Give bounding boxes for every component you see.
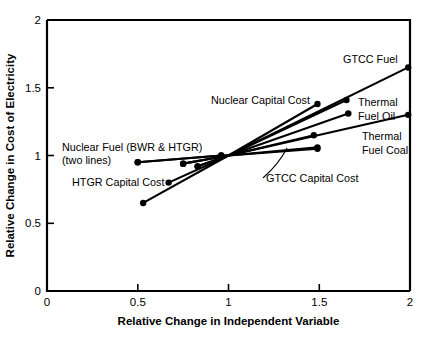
annotation-nuclear-capital-cost: Nuclear Capital Cost (211, 94, 310, 106)
y-tick-label-0: 0 (35, 285, 41, 297)
data-point (314, 146, 320, 152)
x-axis-title: Relative Change in Independent Variable (118, 315, 340, 327)
y-tick-label-0-5: 0.5 (25, 217, 41, 229)
annotation-gtcc-capital-cost: GTCC Capital Cost (266, 172, 358, 184)
annotation-fuel-coal: Fuel Coal (362, 144, 408, 156)
y-axis-title: Relative Change in Cost of Electricity (4, 53, 16, 257)
y-tick-labels: 0 0.5 1 1.5 2 (25, 14, 41, 297)
x-tick-label-1: 1 (225, 296, 231, 308)
x-tick-label-0: 0 (44, 296, 50, 308)
x-tick-label-1-5: 1.5 (311, 296, 327, 308)
data-point (165, 179, 171, 185)
data-point (314, 101, 320, 107)
data-point (343, 97, 349, 103)
data-point (345, 110, 351, 116)
data-point (405, 112, 411, 118)
annotation-gtcc-fuel: GTCC Fuel (343, 53, 398, 65)
data-point (218, 152, 224, 158)
data-point (311, 132, 317, 138)
data-point (180, 160, 186, 166)
annotation-htgr-capital-cost: HTGR Capital Cost (72, 176, 164, 188)
annotation-thermal: Thermal (358, 96, 398, 108)
annotation-fuel-oil: Fuel Oil (358, 110, 395, 122)
chart-figure: 0 0.5 1 1.5 2 0 0.5 1 1.5 2 Relative Cha… (0, 0, 423, 337)
annotation-nuclear-fuel: Nuclear Fuel (BWR & HTGR) (62, 141, 202, 153)
y-tick-label-1: 1 (35, 150, 41, 162)
x-tick-label-2: 2 (407, 296, 413, 308)
annotations-layer: GTCC Fuel Nuclear Capital Cost Thermal F… (62, 53, 408, 188)
y-tick-label-2: 2 (35, 14, 41, 26)
data-point (405, 64, 411, 70)
annotation-thermal-2: Thermal (362, 130, 402, 142)
data-point (135, 159, 141, 165)
x-tick-labels: 0 0.5 1 1.5 2 (44, 296, 413, 308)
data-point (140, 200, 146, 206)
x-tick-label-0-5: 0.5 (130, 296, 146, 308)
y-tick-label-1-5: 1.5 (25, 82, 41, 94)
data-point (194, 163, 200, 169)
annotation-two-lines: (two lines) (62, 154, 111, 166)
relative-cost-line-chart: 0 0.5 1 1.5 2 0 0.5 1 1.5 2 Relative Cha… (0, 0, 423, 337)
